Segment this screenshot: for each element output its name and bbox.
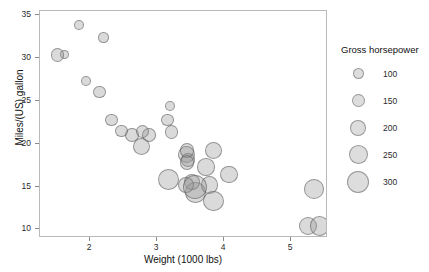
scatter-point xyxy=(165,101,175,111)
x-axis-tick-label: 2 xyxy=(77,243,101,252)
scatter-point xyxy=(105,114,117,126)
scatter-point xyxy=(203,191,223,211)
scatter-point xyxy=(205,142,222,159)
y-axis-tick xyxy=(35,143,39,144)
chart-figure: 1015202530352345 Weight (1000 lbs) Miles… xyxy=(0,0,429,272)
legend-bubble-key xyxy=(341,120,375,136)
scatter-point xyxy=(165,125,179,139)
scatter-point xyxy=(133,138,150,155)
legend-bubble-icon xyxy=(349,145,368,164)
y-axis-title: Miles/(US) gallon xyxy=(14,38,25,178)
y-axis-tick-label: 35 xyxy=(9,10,31,19)
scatter-points-layer xyxy=(40,11,326,236)
legend-bubble-icon xyxy=(352,94,365,107)
scatter-point xyxy=(74,20,84,30)
legend-bubble-key xyxy=(341,171,375,193)
legend-item-label: 300 xyxy=(383,177,397,187)
legend-item-label: 100 xyxy=(383,69,397,79)
x-axis-tick xyxy=(290,237,291,241)
legend-bubble-icon xyxy=(347,171,369,193)
legend-item-label: 200 xyxy=(383,123,397,133)
scatter-point xyxy=(197,158,214,175)
legend-item: 200 xyxy=(341,114,429,141)
scatter-point xyxy=(81,76,91,86)
legend-title: Gross horsepower xyxy=(341,44,429,55)
x-axis-tick-label: 4 xyxy=(211,243,235,252)
x-axis-tick xyxy=(156,237,157,241)
y-axis-tick xyxy=(35,228,39,229)
legend-bubble-key xyxy=(341,94,375,107)
legend-bubble-key xyxy=(341,145,375,164)
x-axis-title: Weight (1000 lbs) xyxy=(39,254,327,265)
scatter-point xyxy=(183,175,207,199)
legend-bubble-key xyxy=(341,68,375,79)
x-axis-tick-label: 3 xyxy=(144,243,168,252)
y-axis-tick-label: 15 xyxy=(9,182,31,191)
legend: Gross horsepower 100150200250300 xyxy=(341,44,429,195)
scatter-point xyxy=(304,179,324,199)
scatter-point xyxy=(158,169,179,190)
legend-bubble-icon xyxy=(350,120,366,136)
legend-item: 150 xyxy=(341,87,429,114)
scatter-point xyxy=(115,125,128,138)
y-axis-tick xyxy=(35,14,39,15)
scatter-point xyxy=(310,216,326,235)
y-axis-tick xyxy=(35,186,39,187)
legend-bubble-icon xyxy=(353,68,364,79)
legend-item: 300 xyxy=(341,168,429,195)
y-axis-tick xyxy=(35,57,39,58)
legend-rows: 100150200250300 xyxy=(341,60,429,195)
x-axis-tick xyxy=(223,237,224,241)
scatter-point xyxy=(51,48,65,62)
legend-item: 250 xyxy=(341,141,429,168)
x-axis-tick xyxy=(89,237,90,241)
legend-item-label: 250 xyxy=(383,150,397,160)
scatter-point xyxy=(180,155,194,169)
plot-panel xyxy=(39,10,327,237)
scatter-point xyxy=(161,114,174,127)
legend-item-label: 150 xyxy=(383,96,397,106)
scatter-point xyxy=(98,32,108,42)
legend-item: 100 xyxy=(341,60,429,87)
scatter-point xyxy=(220,166,237,183)
x-axis-tick-label: 5 xyxy=(278,243,302,252)
y-axis-tick xyxy=(35,100,39,101)
scatter-point xyxy=(93,86,105,98)
y-axis-tick-label: 10 xyxy=(9,224,31,233)
